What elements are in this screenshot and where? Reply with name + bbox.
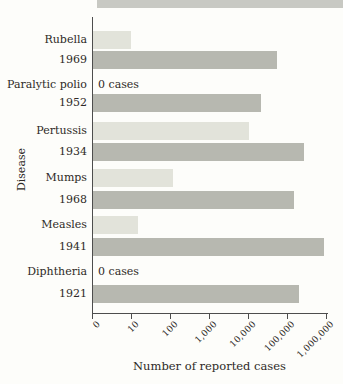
zero-cases-label: 0 cases [98, 265, 139, 279]
peak-year-bar [93, 191, 294, 209]
x-tick-label: 100,000 [263, 319, 297, 353]
x-tick-label: 1,000 [193, 319, 219, 345]
x-tick [248, 313, 249, 319]
x-tick [131, 313, 132, 319]
x-tick-label: 10,000 [228, 319, 258, 349]
recent-cases-bar [93, 122, 249, 140]
peak-year-bar [93, 143, 304, 161]
peak-year-bar [93, 285, 299, 303]
x-tick [170, 313, 171, 319]
peak-year-label: 1969 [0, 53, 87, 67]
peak-year-bar [93, 94, 261, 112]
x-axis-title: Number of reported cases [92, 359, 327, 373]
x-axis-line [92, 313, 328, 314]
zero-cases-label: 0 cases [98, 78, 139, 92]
x-tick [209, 313, 210, 319]
peak-year-bar [93, 238, 324, 256]
x-tick-label: 10 [126, 319, 141, 334]
peak-year-label: 1921 [0, 287, 87, 301]
peak-year-label: 1941 [0, 240, 87, 254]
disease-label: Mumps [0, 171, 87, 185]
x-tick-label: 0 [91, 319, 102, 330]
peak-year-label: 1968 [0, 193, 87, 207]
disease-label: Rubella [0, 33, 87, 47]
y-axis-title: Disease [15, 135, 28, 205]
disease-label: Paralytic polio [0, 78, 87, 92]
x-tick [326, 313, 327, 319]
disease-cases-bar-chart: Rubella1969Paralytic polio0 cases1952Per… [0, 0, 343, 384]
peak-year-label: 1952 [0, 96, 87, 110]
recent-cases-bar [93, 31, 131, 49]
disease-label: Measles [0, 218, 87, 232]
peak-year-bar [93, 51, 277, 69]
disease-label: Pertussis [0, 124, 87, 138]
x-tick [92, 313, 93, 319]
x-tick-label: 1,000,000 [295, 319, 336, 360]
recent-cases-bar [93, 216, 138, 234]
x-tick-label: 100 [160, 319, 180, 339]
x-tick [287, 313, 288, 319]
peak-year-label: 1934 [0, 145, 87, 159]
cropped-top-strip [97, 0, 343, 8]
disease-label: Diphtheria [0, 265, 87, 279]
recent-cases-bar [93, 169, 173, 187]
